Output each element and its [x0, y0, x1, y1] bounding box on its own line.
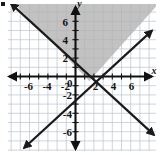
x-tick-label: -4	[42, 80, 52, 92]
coordinate-plane-svg: -6 -4 -2 2 4 6 6 4 2 -2 -4 -6 0 x y	[0, 0, 160, 155]
y-tick-label: 4	[63, 34, 69, 46]
y-tick-label: -4	[63, 108, 73, 120]
y-tick-label: -2	[63, 89, 73, 101]
x-tick-label: 2	[93, 80, 99, 92]
x-tick-label: 6	[129, 80, 135, 92]
y-tick-label: 6	[63, 16, 69, 28]
x-axis-label: x	[151, 65, 157, 76]
y-axis-label: y	[76, 0, 82, 9]
graph-figure: -6 -4 -2 2 4 6 6 4 2 -2 -4 -6 0 x y	[0, 0, 160, 155]
origin-label: 0	[67, 77, 73, 89]
y-tick-label: 2	[63, 52, 69, 64]
x-tick-label: -6	[24, 80, 34, 92]
y-tick-label: -6	[63, 126, 73, 138]
x-tick-label: 4	[111, 80, 117, 92]
